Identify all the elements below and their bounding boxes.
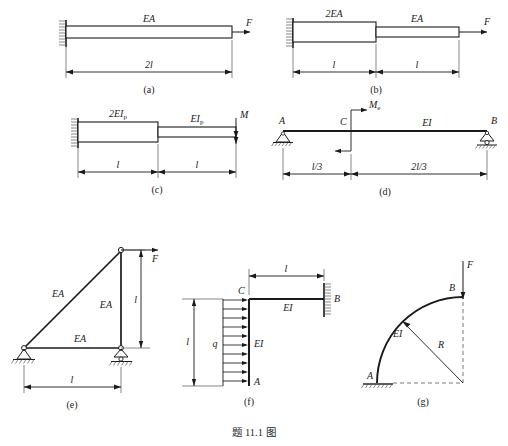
caption-a: (a) bbox=[143, 84, 154, 96]
label-stiffness-horizontal-f: EI bbox=[282, 302, 293, 313]
caption-b: (b) bbox=[370, 84, 382, 96]
label-force-g: F bbox=[466, 259, 474, 270]
fixed-support-icon-b bbox=[286, 18, 293, 48]
label-dimension-right-b: l bbox=[416, 59, 419, 70]
label-node-b-d: B bbox=[491, 115, 497, 126]
label-force-a: F bbox=[245, 17, 253, 28]
pin-support-icon-d bbox=[272, 132, 294, 146]
label-node-b-g: B bbox=[449, 282, 455, 293]
label-dimension-left-b: l bbox=[333, 59, 336, 70]
caption-g: (g) bbox=[417, 396, 429, 408]
label-dimension-left-d: l/3 bbox=[312, 161, 323, 172]
label-stiffness-d: EI bbox=[421, 117, 432, 128]
label-force-e: F bbox=[151, 253, 159, 264]
label-dimension-height-f: l bbox=[186, 336, 189, 347]
label-node-c-d: C bbox=[340, 116, 347, 127]
fixed-support-icon-g bbox=[362, 384, 394, 388]
figure-d: Me A B C EI l/3 2l/3 (d) bbox=[265, 100, 508, 200]
label-dimension-height-e: l bbox=[134, 294, 137, 305]
moment-arrow-c bbox=[234, 118, 239, 144]
caption-d: (d) bbox=[379, 186, 391, 198]
label-node-a-g: A bbox=[366, 370, 374, 381]
page-caption: 题 11.1 图 bbox=[0, 424, 508, 439]
caption-f: (f) bbox=[244, 396, 254, 408]
label-stiffness-a: EA bbox=[142, 13, 156, 24]
radius-arrow-g bbox=[402, 321, 463, 383]
label-node-a-d: A bbox=[278, 115, 286, 126]
label-member-diagonal-e: EA bbox=[51, 288, 65, 299]
label-load-f: q bbox=[213, 338, 218, 349]
label-stiffness-left-b: 2EA bbox=[325, 8, 343, 19]
label-member-horizontal-e: EA bbox=[73, 333, 87, 344]
label-node-a-f: A bbox=[253, 376, 261, 387]
distributed-load-f bbox=[223, 298, 248, 386]
fixed-support-icon-a bbox=[59, 20, 66, 47]
label-dimension-span-f: l bbox=[285, 263, 288, 274]
label-radius-g: R bbox=[437, 339, 444, 350]
label-moment-d: Me bbox=[368, 99, 380, 112]
label-node-c-f: C bbox=[238, 285, 245, 296]
label-force-b: F bbox=[483, 16, 491, 27]
shaft-thick-c bbox=[78, 122, 158, 142]
roller-support-icon-d bbox=[476, 131, 498, 148]
fixed-support-icon-f bbox=[324, 283, 331, 317]
label-stiffness-right-c: EIp bbox=[190, 113, 204, 126]
pin-support-icon-e bbox=[12, 349, 36, 364]
figure-c: 2EIp EIp M l l (c) bbox=[0, 100, 260, 200]
label-dimension-right-d: 2l/3 bbox=[411, 161, 427, 172]
figure-b: 2EA EA F l l (b) bbox=[265, 0, 508, 100]
label-dimension-a: 2l bbox=[145, 59, 153, 70]
label-dimension-right-c: l bbox=[196, 159, 199, 170]
figure-a: EA F 2l (a) bbox=[0, 0, 260, 100]
label-moment-c: M bbox=[239, 109, 249, 120]
bar-thick-b bbox=[293, 22, 376, 42]
dimension-c bbox=[78, 144, 236, 178]
label-dimension-left-c: l bbox=[117, 159, 120, 170]
label-stiffness-g: EI bbox=[392, 328, 403, 339]
roller-support-icon-e bbox=[110, 349, 133, 366]
fixed-support-icon-c bbox=[71, 118, 78, 148]
label-stiffness-right-b: EA bbox=[410, 13, 424, 24]
caption-c: (c) bbox=[151, 184, 162, 196]
label-member-vertical-e: EA bbox=[99, 299, 113, 310]
figure-e: F l EA EA EA l (e) bbox=[0, 215, 180, 415]
figure-g: R F B A EI (g) bbox=[345, 255, 508, 415]
label-dimension-span-e: l bbox=[71, 374, 74, 385]
force-arrow-a bbox=[232, 30, 250, 35]
bar-thin-b bbox=[376, 27, 459, 37]
force-arrow-b bbox=[459, 30, 487, 35]
bar-a bbox=[66, 26, 232, 38]
dimension-b bbox=[293, 40, 459, 78]
label-stiffness-left-c: 2EIp bbox=[109, 108, 127, 121]
label-node-b-f: B bbox=[334, 293, 340, 304]
figure-f: q C A B EI EI l l (f) bbox=[170, 255, 340, 415]
label-stiffness-vertical-f: EI bbox=[253, 338, 264, 349]
shaft-thin-c bbox=[158, 127, 236, 137]
caption-e: (e) bbox=[66, 399, 77, 411]
force-arrow-g bbox=[461, 261, 466, 299]
